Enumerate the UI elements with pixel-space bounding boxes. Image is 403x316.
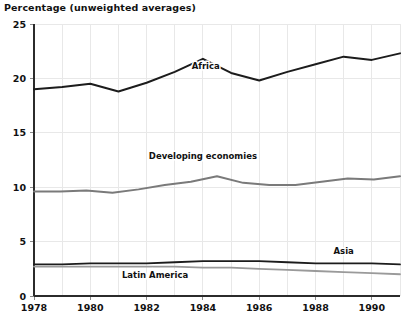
series-line-developing-economies [34,176,400,192]
series-label-latin-america: Latin America [122,270,188,280]
x-tick-label: 1986 [246,302,273,313]
x-tick-label: 1988 [302,302,329,313]
x-tick-label: 1980 [77,302,104,313]
x-tick-label: 1984 [190,302,217,313]
series-line-africa [34,53,400,91]
series-line-latin-america [34,267,400,275]
x-axis-tick-labels: 1978198019821984198619881990 [21,302,386,313]
x-tick-label: 1990 [359,302,386,313]
y-tick-label: 5 [19,236,26,247]
series-label-africa: Africa [192,61,220,71]
chart-container: Percentage (unweighted averages) 0510152… [0,0,403,316]
y-tick-label: 10 [13,182,27,193]
y-tick-label: 25 [13,19,26,30]
series-label-developing-economies: Developing economies [149,151,257,161]
series-line-asia [34,261,400,264]
y-axis-tick-labels: 0510152025 [13,19,27,302]
x-tick-label: 1982 [133,302,159,313]
series-label-asia: Asia [334,246,355,256]
y-tick-label: 20 [13,73,27,84]
series-annotations: AfricaAfricaDeveloping economiesDevelopi… [122,61,354,280]
y-tick-label: 15 [13,127,26,138]
line-chart-plot: 0510152025 1978198019821984198619881990 … [0,0,403,316]
y-tick-label: 0 [19,291,26,302]
x-tick-label: 1978 [21,302,48,313]
